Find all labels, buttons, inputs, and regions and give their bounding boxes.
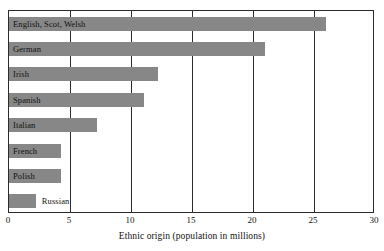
bar-chart: English, Scot, WelshGermanIrishSpanishIt… (0, 0, 384, 251)
bar-row: Russian (9, 194, 375, 208)
x-tick-label: 25 (309, 216, 318, 225)
bar-row: French (9, 144, 375, 158)
x-tick-label: 10 (126, 216, 135, 225)
bar-category-label: Italian (13, 121, 35, 130)
x-tick-label: 15 (187, 216, 196, 225)
bar-row: Polish (9, 169, 375, 183)
bar-row: Italian (9, 118, 375, 132)
bar-category-label: English, Scot, Welsh (13, 19, 85, 28)
bar-row: German (9, 42, 375, 56)
bar-category-label: German (13, 45, 41, 54)
x-tick-label: 20 (248, 216, 257, 225)
bar-category-label: Polish (13, 172, 35, 181)
bar (9, 67, 158, 81)
bar-row: Spanish (9, 93, 375, 107)
x-axis-title: Ethnic origin (population in millions) (0, 232, 384, 242)
bar-category-label: Spanish (13, 96, 41, 105)
bar-category-label: Irish (13, 70, 29, 79)
bar-row: English, Scot, Welsh (9, 17, 375, 31)
bar (9, 194, 36, 208)
bar-row: Irish (9, 67, 375, 81)
bar-category-label: Russian (42, 197, 70, 206)
bars-layer: English, Scot, WelshGermanIrishSpanishIt… (9, 11, 373, 212)
x-tick-label: 0 (6, 216, 11, 225)
x-tick-label: 5 (67, 216, 72, 225)
plot-area: English, Scot, WelshGermanIrishSpanishIt… (8, 10, 374, 213)
bar-category-label: French (13, 146, 37, 155)
bar (9, 42, 265, 56)
x-tick-label: 30 (370, 216, 379, 225)
